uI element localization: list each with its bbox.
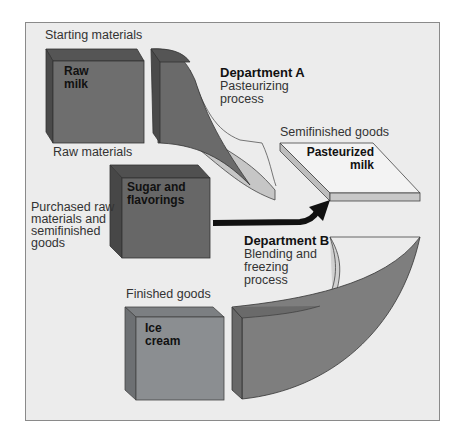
ice-cream-label: Ice cream — [145, 322, 180, 348]
raw-milk-box — [46, 49, 144, 143]
sugar-box — [110, 165, 210, 258]
department-b-title: Department B — [244, 234, 329, 247]
sugar-label: Sugar and flavorings — [127, 181, 186, 207]
label-finished-goods: Finished goods — [126, 288, 211, 301]
label-purchased-materials: Purchased raw materials and semifinished… — [31, 201, 114, 249]
label-starting-materials: Starting materials — [45, 29, 142, 42]
label-semifinished-goods: Semifinished goods — [280, 126, 389, 139]
pasteurized-milk-label: Pasteurized milk — [302, 146, 374, 172]
department-b-process: Blending and freezing process — [244, 248, 317, 287]
ice-cream-box — [125, 307, 224, 400]
department-a-title: Department A — [220, 66, 305, 79]
label-raw-materials: Raw materials — [53, 146, 132, 159]
raw-milk-label: Raw milk — [64, 65, 89, 91]
department-a-process: Pasteurizing process — [220, 80, 289, 106]
flow-arrow — [213, 200, 330, 223]
